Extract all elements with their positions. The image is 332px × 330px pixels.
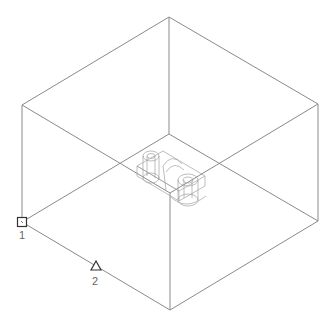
wireframe-drawing [0,0,332,330]
part-model[interactable] [137,151,206,206]
marker-2-triangle[interactable] [91,261,101,270]
marker-1-square[interactable] [18,218,27,227]
marker-1-label: 1 [19,230,25,241]
bounding-box [22,17,318,310]
cad-viewport[interactable]: 1 2 [0,0,332,330]
marker-2-label: 2 [92,276,98,287]
